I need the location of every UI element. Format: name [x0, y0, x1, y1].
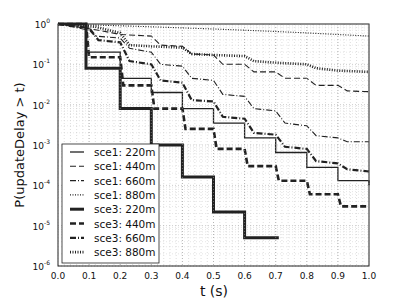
legend-entry: sce1: 880m	[94, 189, 156, 201]
y-tick-label: 10-5	[33, 219, 51, 232]
x-axis-label: t (s)	[200, 283, 228, 299]
x-tick-label: 1.0	[362, 271, 377, 281]
legend-entry: sce1: 660m	[94, 175, 156, 187]
y-tick-label: 100	[35, 17, 50, 30]
x-tick-label: 0.3	[144, 271, 158, 281]
x-tick-label: 0.2	[113, 271, 127, 281]
ccdf-chart: 0.00.10.20.30.40.50.60.70.80.91.0 10010-…	[0, 0, 393, 307]
x-tick-label: 0.5	[206, 271, 220, 281]
y-tick-label: 10-4	[33, 178, 51, 191]
legend-entry: sce3: 440m	[94, 218, 156, 230]
x-tick-label: 0.0	[51, 271, 66, 281]
legend-entry: sce3: 880m	[94, 246, 156, 258]
y-axis-label: P(updateDelay > t)	[12, 82, 27, 207]
legend: sce1: 220msce1: 440msce1: 660msce1: 880m…	[62, 144, 159, 263]
legend-entry: sce1: 440m	[94, 160, 156, 172]
y-axis-ticks: 10010-110-210-310-410-510-6	[33, 17, 51, 272]
legend-entry: sce1: 220m	[94, 146, 156, 158]
legend-entry: sce3: 220m	[94, 203, 156, 215]
legend-entry: sce3: 660m	[94, 232, 156, 244]
x-tick-label: 0.1	[82, 271, 96, 281]
x-tick-label: 0.8	[300, 271, 315, 281]
x-tick-label: 0.7	[269, 271, 283, 281]
x-tick-label: 0.4	[175, 271, 190, 281]
y-tick-label: 10-6	[33, 259, 51, 272]
y-tick-label: 10-1	[33, 57, 51, 70]
x-tick-label: 0.6	[237, 271, 252, 281]
series-line	[58, 24, 369, 142]
x-tick-label: 0.9	[331, 271, 346, 281]
y-tick-label: 10-2	[33, 98, 51, 111]
y-tick-label: 10-3	[33, 138, 51, 151]
